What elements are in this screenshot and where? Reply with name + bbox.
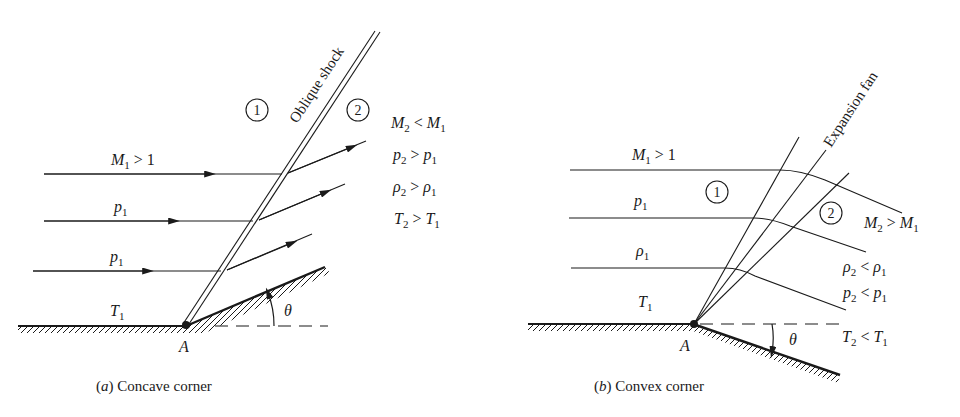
upstream-mach-label-a: M1 > 1: [110, 151, 155, 171]
caption-b: (b) Convex corner: [594, 378, 704, 395]
svg-text:1: 1: [714, 185, 721, 200]
region-2-marker-a: 2: [347, 99, 369, 121]
expansion-fan: [694, 137, 849, 324]
upstream-density-label-a: p1: [109, 248, 124, 268]
svg-text:2: 2: [355, 103, 362, 118]
svg-text:T2 < T1: T2 < T1: [842, 328, 888, 348]
shock-label: Oblique shock: [286, 43, 347, 125]
upstream-mach-label-b: M1 > 1: [631, 146, 676, 166]
upstream-density-label-b: ρ1: [635, 242, 649, 262]
wall-ramp-down: [693, 324, 840, 383]
angle-label-b: θ: [789, 331, 797, 348]
region-1-marker-b: 1: [706, 181, 728, 203]
svg-text:p2 > p1: p2 > p1: [392, 146, 437, 166]
streamlines-b: [569, 170, 902, 310]
corner-label-a: A: [178, 338, 189, 355]
diagram-canvas: Oblique shock 1 2 M1 > 1 p1 p1 T1 M2 < M…: [0, 0, 960, 417]
svg-text:M2 > M1: M2 > M1: [863, 214, 919, 234]
panel-a-concave-corner: Oblique shock 1 2 M1 > 1 p1 p1 T1 M2 < M…: [18, 31, 446, 395]
region-1-marker-a: 1: [246, 99, 268, 121]
corner-label-b: A: [679, 337, 690, 354]
upstream-pressure-label-b: p1: [633, 192, 648, 212]
angle-label-a: θ: [284, 302, 292, 319]
svg-text:ρ2 > ρ1: ρ2 > ρ1: [392, 178, 436, 198]
upstream-temperature-label-a: T1: [110, 302, 124, 322]
region-2-marker-b: 2: [820, 202, 842, 224]
streamlines-a: [33, 141, 366, 271]
angle-arc-b: [772, 324, 773, 352]
svg-text:1: 1: [254, 103, 261, 118]
panel-b-convex-corner: Expansion fan 1 2 M1 > 1 p1 ρ1 T1 M2 > M…: [528, 68, 919, 395]
svg-text:p2 < p1: p2 < p1: [842, 284, 887, 304]
svg-text:T2 > T1: T2 > T1: [394, 210, 440, 230]
svg-text:2: 2: [828, 206, 835, 221]
wall-ramp: [186, 267, 330, 333]
wall-flat: [18, 326, 186, 333]
caption-a: (a) Concave corner: [96, 378, 212, 395]
oblique-shock: [183, 31, 380, 324]
upstream-pressure-label-a: p1: [113, 198, 128, 218]
corner-point-a: [182, 321, 190, 329]
downstream-relations-a: M2 < M1 p2 > p1 ρ2 > ρ1 T2 > T1: [390, 114, 446, 230]
wall-flat-b: [528, 324, 693, 331]
svg-text:ρ2 < ρ1: ρ2 < ρ1: [842, 258, 886, 278]
downstream-relations-b: M2 > M1 ρ2 < ρ1 p2 < p1 T2 < T1: [842, 214, 919, 348]
upstream-temperature-label-b: T1: [638, 293, 652, 313]
svg-text:M2 < M1: M2 < M1: [390, 114, 446, 134]
fan-label: Expansion fan: [820, 68, 881, 149]
